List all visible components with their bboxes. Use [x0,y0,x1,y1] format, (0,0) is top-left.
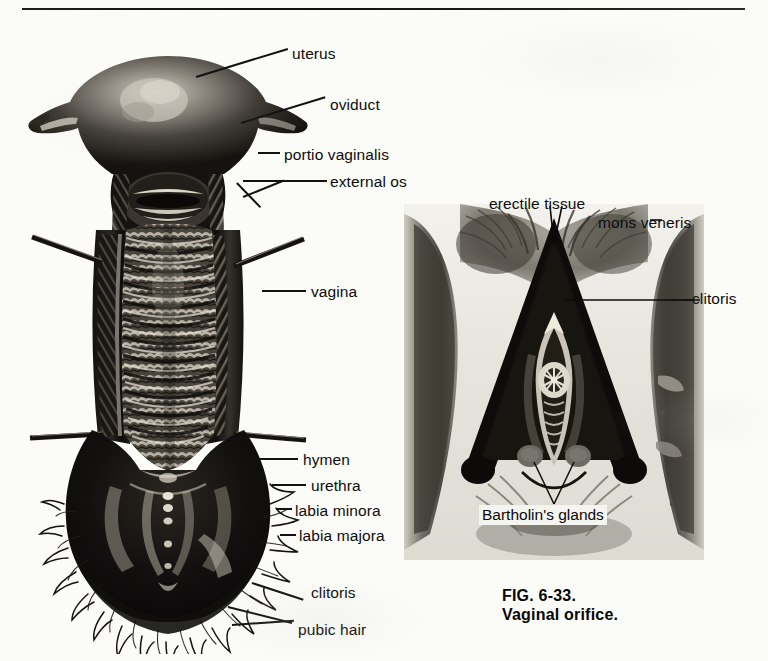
leader-hymen [258,458,298,460]
figure-number: FIG. 6-33. [502,586,618,605]
label-urethra: urethra [311,478,361,494]
label-hymen: hymen [303,452,350,468]
label-labia-minora: labia minora [295,503,381,519]
leader-external-os [243,180,327,182]
label-clitoris-right: clitoris [692,291,737,307]
leader-labia-minora [276,508,292,510]
left-figure-svg [18,34,318,654]
figure-caption: FIG. 6-33. Vaginal orifice. [502,586,618,624]
label-erectile-tissue: erectile tissue [489,196,585,212]
label-vagina: vagina [311,284,357,300]
leader-labia-majora [280,534,296,536]
label-portio-vaginalis: portio vaginalis [284,147,389,163]
label-labia-majora: labia majora [299,528,385,544]
leader-clitoris-right [672,299,694,301]
label-clitoris-left: clitoris [311,585,356,601]
label-bartholins-glands: Bartholin's glands [479,505,607,525]
leader-urethra [272,484,306,486]
label-oviduct: oviduct [330,97,380,113]
leader-portio-vaginalis [258,152,280,154]
label-pubic-hair: pubic hair [298,622,366,638]
figure-title: Vaginal orifice. [502,605,618,624]
page-top-rule [22,8,745,10]
label-mons-veneris: mons veneris [598,215,691,231]
label-uterus: uterus [292,46,336,62]
left-figure-illustration [18,34,318,654]
label-external-os: external os [330,174,407,190]
leader-vagina [262,290,306,292]
